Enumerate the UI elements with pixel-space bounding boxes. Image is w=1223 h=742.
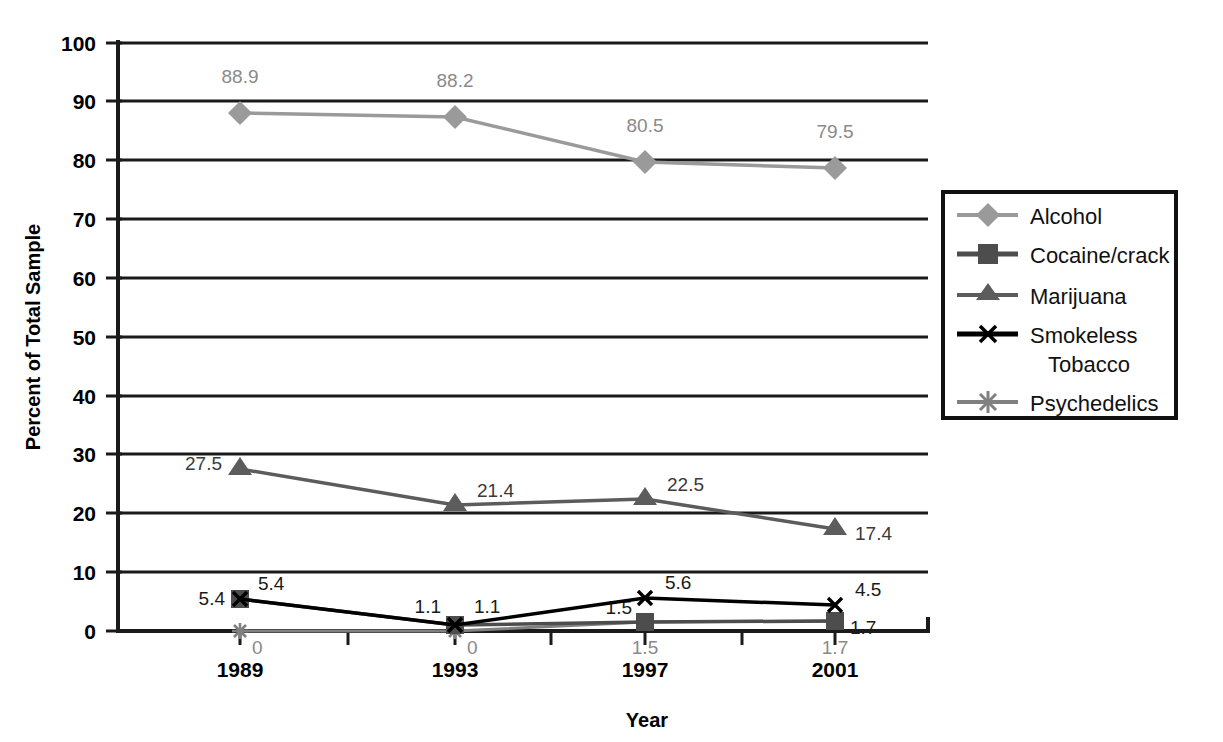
alcohol-label-1989: 88.9 bbox=[222, 66, 259, 87]
psychedelics-label-1997: 1.5 bbox=[632, 637, 658, 658]
smokeless-label-2001: 4.5 bbox=[855, 579, 881, 600]
y-tick-90: 90 bbox=[73, 90, 96, 113]
cocaine-label-1989: 5.4 bbox=[199, 588, 226, 609]
marijuana-marker-1997 bbox=[633, 487, 657, 505]
legend-label-tobacco: Tobacco bbox=[1048, 352, 1130, 377]
legend-item-psychedelics[interactable]: Psychedelics bbox=[957, 391, 1158, 416]
y-tick-80: 80 bbox=[73, 149, 96, 172]
y-tick-20: 20 bbox=[73, 502, 96, 525]
x-axis-ticks bbox=[240, 631, 835, 645]
y-tick-100: 100 bbox=[61, 32, 96, 55]
alcohol-label-2001: 79.5 bbox=[817, 121, 854, 142]
smokeless-label-1989: 5.4 bbox=[258, 573, 285, 594]
cocaine-marker-1997 bbox=[636, 613, 654, 631]
x-tick-labels: 1989 1993 1997 2001 bbox=[217, 658, 859, 681]
x-tick-1997: 1997 bbox=[622, 658, 669, 681]
y-axis-title: Percent of Total Sample bbox=[22, 224, 44, 450]
y-tick-50: 50 bbox=[73, 326, 96, 349]
y-tick-0: 0 bbox=[84, 620, 96, 643]
alcohol-label-1997: 80.5 bbox=[627, 115, 664, 136]
psychedelics-label-1993: 0 bbox=[467, 637, 478, 658]
y-tick-labels: 100 90 80 70 60 50 40 30 20 10 0 bbox=[61, 32, 96, 643]
legend: Alcohol Cocaine/crack Marijuana bbox=[943, 192, 1176, 418]
marijuana-label-1997: 22.5 bbox=[667, 474, 704, 495]
chart-svg: 100 90 80 70 60 50 40 30 20 10 0 1989 19… bbox=[0, 0, 1223, 742]
y-tick-70: 70 bbox=[73, 208, 96, 231]
marijuana-marker-1989 bbox=[228, 457, 252, 475]
alcohol-marker-1997 bbox=[633, 150, 657, 174]
legend-label-alcohol: Alcohol bbox=[1030, 204, 1102, 229]
y-tick-40: 40 bbox=[73, 385, 96, 408]
legend-label-cocaine-crack: Cocaine/crack bbox=[1030, 243, 1170, 268]
psychedelics-label-1989: 0 bbox=[252, 637, 263, 658]
alcohol-marker-1993 bbox=[443, 105, 467, 129]
psychedelics-asterisk-icon bbox=[978, 391, 998, 413]
alcohol-label-1993: 88.2 bbox=[437, 70, 474, 91]
x-tick-1989: 1989 bbox=[217, 658, 264, 681]
legend-label-psychedelics: Psychedelics bbox=[1030, 391, 1158, 416]
y-tick-10: 10 bbox=[73, 561, 96, 584]
legend-label-marijuana: Marijuana bbox=[1030, 284, 1127, 309]
smokeless-label-1993: 1.1 bbox=[474, 596, 500, 617]
marijuana-label-1993: 21.4 bbox=[477, 480, 514, 501]
cocaine-square-icon bbox=[978, 244, 998, 264]
alcohol-marker-1989 bbox=[228, 101, 252, 125]
series-marijuana: 27.5 21.4 22.5 17.4 bbox=[185, 453, 892, 544]
marijuana-line bbox=[240, 469, 835, 529]
x-axis-title: Year bbox=[626, 709, 668, 731]
marijuana-label-2001: 17.4 bbox=[855, 523, 892, 544]
cocaine-label-2001: 1.7 bbox=[850, 617, 876, 638]
psychedelics-marker-1989 bbox=[232, 623, 248, 639]
y-tick-60: 60 bbox=[73, 267, 96, 290]
cocaine-marker-2001 bbox=[826, 612, 844, 630]
marijuana-label-1989: 27.5 bbox=[185, 453, 222, 474]
line-chart: 100 90 80 70 60 50 40 30 20 10 0 1989 19… bbox=[0, 0, 1223, 742]
legend-label-smokeless: Smokeless bbox=[1030, 323, 1138, 348]
y-tick-30: 30 bbox=[73, 443, 96, 466]
x-tick-1993: 1993 bbox=[432, 658, 479, 681]
x-tick-2001: 2001 bbox=[812, 658, 859, 681]
psychedelics-label-2001: 1.7 bbox=[822, 637, 848, 658]
cocaine-label-1993: 1.1 bbox=[415, 596, 441, 617]
smokeless-label-1997: 5.6 bbox=[665, 572, 691, 593]
series-alcohol: 88.9 88.2 80.5 79.5 bbox=[222, 66, 854, 180]
